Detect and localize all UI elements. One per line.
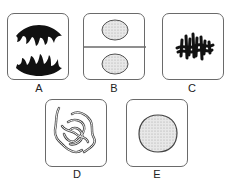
label-e: E: [147, 168, 167, 180]
metaphase-chromosomes-icon: [163, 14, 225, 81]
anaphase-chromosomes-icon: [8, 14, 70, 81]
panel-d: [45, 99, 107, 167]
panel-a: [7, 13, 69, 80]
label-b: B: [104, 82, 124, 94]
label-a: A: [29, 82, 49, 94]
panel-e: [126, 99, 188, 167]
label-c: C: [182, 82, 202, 94]
telophase-cells-icon: [84, 14, 146, 81]
prophase-threads-icon: [46, 100, 108, 168]
panel-c: [162, 13, 224, 80]
label-d: D: [67, 168, 87, 180]
interphase-nucleus-icon: [127, 100, 189, 168]
panel-b: [83, 13, 145, 80]
